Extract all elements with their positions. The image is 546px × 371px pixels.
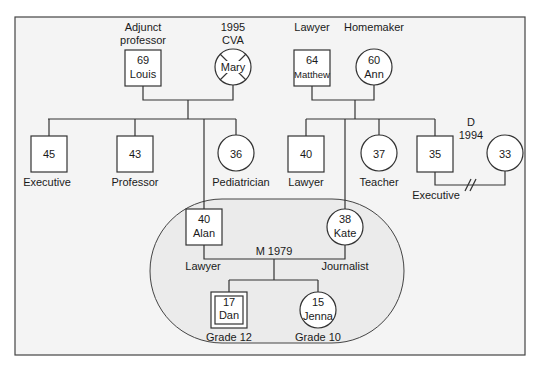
louis-label-line1: Adjunct	[125, 21, 162, 33]
svg-text:33: 33	[499, 148, 511, 160]
mary-label-line2: CVA	[222, 34, 244, 46]
occupation-kate: Journalist	[321, 260, 368, 272]
node-louis: 69 Louis	[125, 50, 161, 86]
occupation-executive-2: Executive	[412, 189, 460, 201]
node-ex-spouse-33: 33	[487, 135, 523, 171]
marriage-label: M 1979	[256, 245, 293, 257]
mary-label-line1: 1995	[221, 21, 245, 33]
occupation-pediatrician: Pediatrician	[212, 176, 269, 188]
svg-text:36: 36	[230, 148, 242, 160]
ann-label: Homemaker	[344, 21, 404, 33]
node-child-43: 43	[117, 136, 153, 172]
occupation-executive-1: Executive	[23, 176, 71, 188]
node-child-36: 36	[218, 135, 254, 171]
node-child-37: 37	[361, 135, 397, 171]
svg-text:Alan: Alan	[193, 227, 215, 239]
node-mary-deceased: Mary	[215, 49, 251, 85]
grade-dan: Grade 12	[206, 331, 252, 343]
svg-text:40: 40	[198, 213, 210, 225]
node-child-40: 40	[288, 136, 324, 172]
occupation-professor: Professor	[111, 176, 158, 188]
svg-text:Louis: Louis	[130, 68, 157, 80]
occupation-teacher: Teacher	[359, 176, 398, 188]
svg-text:Jenna: Jenna	[303, 310, 334, 322]
svg-text:64: 64	[306, 54, 318, 66]
louis-label-line2: professor	[120, 34, 166, 46]
grade-jenna: Grade 10	[295, 331, 341, 343]
occupation-lawyer: Lawyer	[288, 176, 324, 188]
svg-text:69: 69	[137, 54, 149, 66]
matthew-label: Lawyer	[294, 21, 330, 33]
node-kate: 38 Kate	[327, 209, 363, 245]
svg-text:43: 43	[129, 148, 141, 160]
node-dan-identified-patient: 17 Dan	[211, 292, 247, 328]
node-matthew: 64 Matthew	[294, 50, 330, 86]
svg-text:15: 15	[312, 296, 324, 308]
svg-text:Kate: Kate	[334, 227, 357, 239]
svg-text:37: 37	[373, 148, 385, 160]
genogram-diagram: Adjunct professor 69 Louis 1995 CVA Mary…	[0, 0, 546, 371]
node-child-35: 35	[417, 136, 453, 172]
divorce-label-d: D	[467, 116, 475, 128]
svg-text:60: 60	[368, 54, 380, 66]
svg-text:Matthew: Matthew	[294, 69, 330, 80]
svg-text:38: 38	[339, 213, 351, 225]
svg-text:17: 17	[223, 296, 235, 308]
node-child-45: 45	[31, 136, 67, 172]
occupation-alan: Lawyer	[185, 260, 221, 272]
node-jenna: 15 Jenna	[300, 292, 336, 328]
svg-text:Ann: Ann	[364, 68, 384, 80]
divorce-label-year: 1994	[459, 129, 483, 141]
svg-text:35: 35	[429, 148, 441, 160]
node-alan: 40 Alan	[186, 209, 222, 245]
svg-text:45: 45	[43, 148, 55, 160]
svg-text:Mary: Mary	[221, 61, 246, 73]
node-ann: 60 Ann	[356, 49, 392, 85]
svg-text:Dan: Dan	[219, 309, 239, 321]
svg-text:40: 40	[300, 148, 312, 160]
